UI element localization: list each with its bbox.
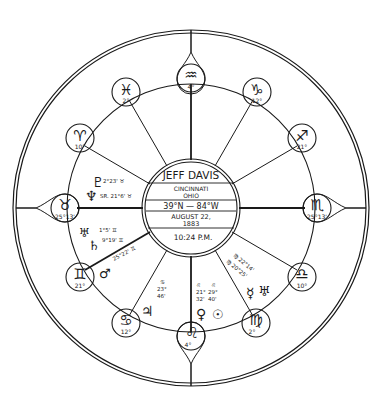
- uranus-icon: ♅: [258, 283, 271, 299]
- saturn-position: 9°19' ♊: [102, 237, 124, 243]
- subject-name: JEFF DAVIS: [162, 169, 220, 181]
- venus-sign: ♌: [196, 282, 201, 288]
- neptune-icon: ♆: [85, 188, 98, 204]
- birth-state: OHIO: [183, 192, 199, 199]
- scorpio-icon: ♏: [310, 196, 324, 214]
- sign-virgo: ♍ 2°: [242, 309, 270, 337]
- birth-city: CINCINNATI: [174, 185, 209, 192]
- sign-degree: 21°: [297, 143, 308, 150]
- jupiter-minute: 46': [157, 293, 166, 299]
- sign-sagittarius: ♐ 21°: [288, 124, 316, 152]
- sun-icon: ☉: [212, 307, 224, 322]
- sign-degree: 10°: [75, 143, 86, 150]
- pluto-alt-position: 1°5' ♊: [99, 227, 117, 233]
- sign-aries: ♈ 10°: [66, 124, 94, 152]
- sign-degree: 2°: [249, 328, 256, 335]
- sign-leo: ♌ 4°: [177, 322, 205, 350]
- venus-degree: 21°: [196, 289, 206, 295]
- saturn-icon: ♄: [88, 238, 100, 253]
- sign-degree: 2°: [123, 97, 130, 104]
- sign-degree: 25°13': [55, 213, 75, 220]
- sign-capricorn: ♑ 12°: [243, 78, 271, 106]
- jupiter-icon: ♃: [141, 303, 154, 319]
- sign-scorpio: ♏ 25°13': [303, 194, 331, 222]
- sign-degree: 10°: [297, 282, 308, 289]
- sign-degree: 21°: [75, 282, 86, 289]
- sun-degree: 29°: [208, 289, 218, 295]
- natal-chart-wheel: ♒ 4° ♑ 12° ♐ 21° ♏ 25°13' ♎ 10°: [0, 0, 382, 406]
- sun-sign: ♌: [211, 282, 216, 288]
- leo-icon: ♌: [185, 324, 198, 342]
- birth-coordinates: 39°N — 84°W: [163, 202, 218, 211]
- mercury-icon: ☿: [246, 285, 255, 301]
- sign-degree: 4°: [185, 341, 192, 348]
- sign-gemini: ♊ 21°: [66, 263, 94, 291]
- sign-degree: 12°: [121, 328, 132, 335]
- libra-icon: ♎: [295, 265, 308, 283]
- sign-aquarius: ♒ 4°: [177, 64, 205, 92]
- neptune-position: SR. 21°6' ♉: [100, 193, 132, 199]
- jupiter-sign: ♋: [160, 279, 165, 285]
- sign-cancer: ♋ 12°: [112, 309, 140, 337]
- sign-degree: 4°: [188, 83, 195, 90]
- virgo-icon: ♍: [249, 311, 262, 329]
- venus-icon: ♀: [196, 306, 206, 322]
- sign-pisces: ♓ 2°: [112, 78, 140, 106]
- sun-minute: 40': [208, 296, 217, 302]
- venus-minute: 32': [196, 296, 205, 302]
- sign-libra: ♎ 10°: [288, 263, 316, 291]
- sign-taurus: ♉ 25°13': [51, 194, 79, 222]
- birth-year: 1883: [183, 220, 200, 228]
- gemini-icon: ♊: [73, 265, 86, 283]
- mars-icon: ♂: [99, 266, 111, 281]
- jupiter-degree: 23°: [157, 286, 167, 292]
- aquarius-icon: ♒: [184, 66, 197, 84]
- birth-time: 10:24 P.M.: [174, 233, 213, 242]
- taurus-icon: ♉: [58, 196, 71, 214]
- pluto-position: 2°23' ♉: [103, 178, 125, 184]
- sign-degree: 12°: [252, 97, 263, 104]
- sign-degree: 25°13': [307, 213, 327, 220]
- center-info-disc: JEFF DAVIS CINCINNATI OHIO 39°N — 84°W A…: [142, 159, 240, 257]
- cancer-icon: ♋: [119, 311, 132, 329]
